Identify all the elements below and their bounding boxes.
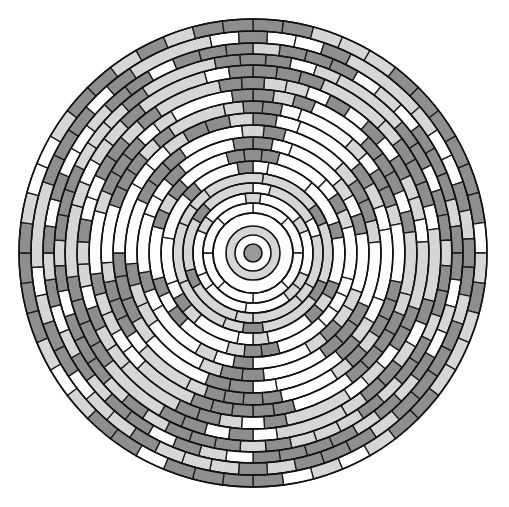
ring-segment <box>244 345 262 357</box>
ring-segment <box>54 240 65 266</box>
ring-segment <box>241 417 264 429</box>
ring-segment <box>253 332 269 345</box>
ring-segment <box>241 77 264 89</box>
ring-segment <box>243 101 263 113</box>
ring-segment <box>240 54 266 65</box>
center-dot <box>244 244 262 262</box>
ring-segment <box>243 393 263 405</box>
ring-segment <box>463 238 475 267</box>
ring-segment <box>244 149 262 161</box>
ring-segment <box>242 369 264 381</box>
ring-segment <box>240 441 266 452</box>
ring-segment <box>243 322 264 333</box>
ring-segment <box>77 241 89 264</box>
ring-segment <box>238 463 267 475</box>
ring-segment <box>238 31 267 43</box>
mosaic-svg <box>0 0 509 507</box>
ring-mosaic-figure: Concentric ring mosaic pattern <box>0 0 509 507</box>
ring-segment <box>253 161 269 174</box>
ring-segment <box>245 193 261 203</box>
ring-segment <box>441 240 452 266</box>
ring-segment <box>237 332 253 345</box>
ring-segment <box>237 161 253 174</box>
ring-segment <box>242 125 264 137</box>
